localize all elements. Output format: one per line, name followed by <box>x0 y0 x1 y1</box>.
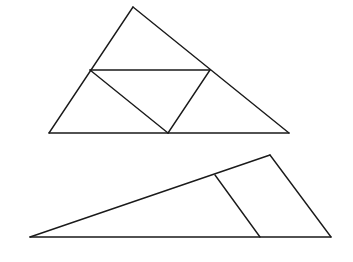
triangle-with-midsegments-segment-5 <box>168 70 210 133</box>
triangle-with-midsegments-segment-4 <box>90 70 168 133</box>
obtuse-triangle-with-parallel-segment <box>30 155 331 237</box>
triangle-with-midsegments <box>49 7 289 133</box>
diagram-canvas <box>0 0 353 262</box>
obtuse-triangle-with-parallel-segment-segment-1 <box>270 155 331 237</box>
obtuse-triangle-with-parallel-segment-segment-0 <box>30 155 270 237</box>
obtuse-triangle-with-parallel-segment-segment-3 <box>215 175 260 237</box>
